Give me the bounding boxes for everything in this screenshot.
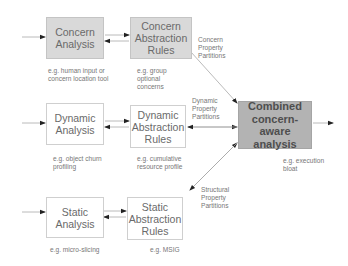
static-analysis-box: Static Analysis xyxy=(46,197,104,238)
dynamic-analysis-note: e.g. object churn profiling xyxy=(53,155,102,171)
concern-analysis-note: e.g. human input or concern location too… xyxy=(48,67,108,83)
dynamic-analysis-label: Dynamic Analysis xyxy=(55,112,96,136)
dynamic-abstraction-note: e.g. cumulative resource profile xyxy=(137,155,182,171)
combined-analysis-note: e.g. execution bloat xyxy=(283,157,324,173)
static-abstraction-box: Static Abstraction Rules xyxy=(127,197,183,240)
static-abstraction-note: e.g. MSIG xyxy=(150,246,180,254)
dynamic-partitions-label: Dynamic Property Partitions xyxy=(192,97,220,120)
concern-abstraction-label: Concern Abstraction Rules xyxy=(135,20,188,56)
dynamic-analysis-box: Dynamic Analysis xyxy=(46,103,104,145)
concern-abstraction-box: Concern Abstraction Rules xyxy=(130,17,192,59)
combined-analysis-label: Combined concern-aware analysis xyxy=(239,100,311,150)
combined-analysis-box: Combined concern-aware analysis xyxy=(238,101,312,149)
static-analysis-note: e.g. micro-slicing xyxy=(50,246,99,254)
static-analysis-label: Static Analysis xyxy=(55,206,94,230)
concern-abstraction-note: e.g. group optional concerns xyxy=(137,67,167,90)
concern-analysis-box: Concern Analysis xyxy=(46,17,104,59)
static-abstraction-label: Static Abstraction Rules xyxy=(129,201,182,237)
dynamic-abstraction-box: Dynamic Abstraction Rules xyxy=(130,105,186,148)
concern-partitions-label: Concern Property Partitions xyxy=(198,36,226,59)
structural-partitions-label: Structural Property Partitions xyxy=(201,186,229,209)
concern-analysis-label: Concern Analysis xyxy=(55,26,95,50)
dynamic-abstraction-label: Dynamic Abstraction Rules xyxy=(132,109,185,145)
